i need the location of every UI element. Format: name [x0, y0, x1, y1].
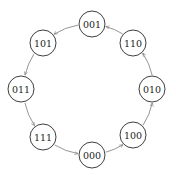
edge-001-to-101	[54, 25, 78, 34]
edge-010-to-110	[143, 53, 153, 75]
edge-111-to-000	[55, 145, 78, 154]
node-label: 010	[143, 84, 161, 95]
node-110: 110	[120, 30, 146, 56]
edge-101-to-011	[25, 54, 34, 75]
edge-110-to-001	[106, 27, 123, 34]
node-101: 101	[30, 30, 56, 56]
node-label: 101	[34, 38, 52, 49]
node-111: 111	[30, 124, 56, 150]
node-label: 011	[12, 84, 30, 95]
node-label: 100	[124, 130, 142, 141]
node-100: 100	[120, 122, 146, 148]
node-label: 110	[124, 38, 142, 49]
node-label: 000	[83, 150, 101, 161]
nodes-group: 001101011111000100010110	[8, 11, 165, 168]
node-000: 000	[79, 142, 105, 168]
node-label: 001	[83, 19, 101, 30]
node-010: 010	[139, 76, 165, 102]
node-label: 111	[34, 132, 52, 143]
state-cycle-diagram: 001101011111000100010110	[0, 0, 176, 175]
node-011: 011	[8, 76, 34, 102]
edge-011-to-111	[25, 103, 35, 126]
edge-000-to-100	[106, 145, 123, 153]
node-001: 001	[79, 11, 105, 37]
edge-100-to-010	[143, 103, 152, 125]
